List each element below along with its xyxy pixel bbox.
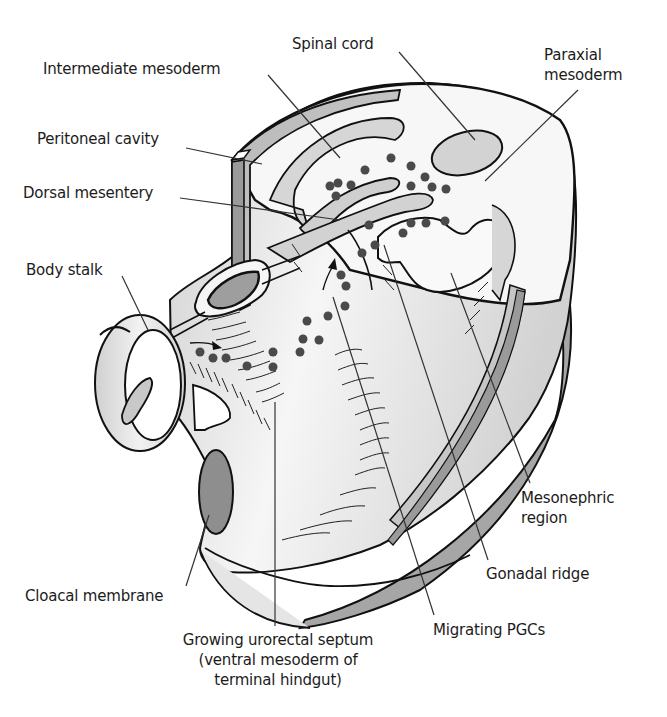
label-urorectal-septum: Growing urorectal septum (ventral mesode… <box>158 630 398 690</box>
label-urorectal-septum-line2: (ventral mesoderm of <box>158 650 398 670</box>
body-stalk-ring <box>95 315 185 451</box>
label-dorsal-mesentery: Dorsal mesentery <box>23 183 153 203</box>
label-peritoneal-cavity: Peritoneal cavity <box>37 129 159 149</box>
label-mesonephric-region: Mesonephric region <box>521 488 614 528</box>
label-paraxial-mesoderm: Paraxial mesoderm <box>544 45 623 85</box>
label-cloacal-membrane: Cloacal membrane <box>25 586 163 606</box>
label-migrating-pgcs: Migrating PGCs <box>433 620 545 640</box>
label-urorectal-septum-line1: Growing urorectal septum <box>158 630 398 650</box>
label-paraxial-mesoderm-line2: mesoderm <box>544 65 623 85</box>
cloacal-membrane <box>199 450 233 534</box>
label-spinal-cord: Spinal cord <box>292 34 374 54</box>
label-intermediate-mesoderm: Intermediate mesoderm <box>43 59 220 79</box>
label-urorectal-septum-line3: terminal hindgut) <box>158 670 398 690</box>
label-mesonephric-region-line1: Mesonephric <box>521 488 614 508</box>
label-paraxial-mesoderm-line1: Paraxial <box>544 45 623 65</box>
diagram-canvas <box>0 0 667 717</box>
label-mesonephric-region-line2: region <box>521 508 614 528</box>
label-gonadal-ridge: Gonadal ridge <box>486 564 589 584</box>
label-body-stalk: Body stalk <box>26 260 102 280</box>
